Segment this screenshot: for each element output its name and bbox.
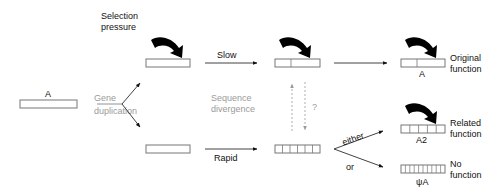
or-arrow: [334, 149, 383, 167]
selection-pressure-label-1: Selection: [101, 11, 138, 21]
pseudogene-box: [401, 165, 445, 173]
no-function-label-1: No: [450, 159, 462, 169]
sequence-divergence-label-1: Sequence: [211, 93, 252, 103]
original-gene-box: [401, 59, 445, 67]
pseudogene-label: ψA: [416, 177, 428, 187]
selection-pressure-arrow-icon: [405, 37, 437, 58]
rapid-label: Rapid: [214, 153, 238, 163]
question-mark-label: ?: [312, 102, 317, 112]
gene-duplication-diagram: Selection pressure A Gene duplication Sl…: [0, 0, 504, 196]
dup-bottom-box: [146, 145, 190, 153]
related-gene-label: A2: [416, 135, 427, 145]
related-gene-box: [401, 125, 445, 133]
selection-pressure-arrow-icon: [405, 103, 437, 124]
related-function-label-2: function: [450, 129, 482, 139]
selection-pressure-label-2: pressure: [101, 22, 136, 32]
either-label: either: [341, 130, 366, 147]
related-function-label-1: Related: [450, 118, 481, 128]
selection-pressure-arrow-icon: [151, 37, 183, 58]
arrow-up-duplication: [122, 83, 140, 104]
no-function-label-2: function: [450, 170, 482, 180]
gene-a-label: A: [45, 89, 51, 99]
original-function-label-1: Original: [450, 53, 481, 63]
dup-top-box: [146, 59, 190, 67]
selection-pressure-arrow-icon: [279, 37, 311, 58]
or-label: or: [346, 162, 354, 172]
sequence-divergence-label-2: divergence: [211, 104, 255, 114]
rapid-diverged-box: [275, 145, 320, 153]
original-gene-label: A: [419, 69, 425, 79]
gene-duplication-label-1: Gene: [94, 93, 116, 103]
gene-a-box: [20, 100, 77, 108]
slow-diverged-box: [275, 59, 320, 67]
slow-label: Slow: [217, 50, 237, 60]
original-function-label-2: function: [450, 64, 482, 74]
